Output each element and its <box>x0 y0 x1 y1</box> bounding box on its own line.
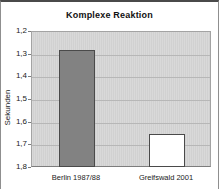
chart-frame: Komplexe Reaktion Sekunden Berlin 1987/8… <box>0 0 219 189</box>
y-tick-label: 1,2 <box>5 27 27 35</box>
x-category-label: Berlin 1987/88 <box>36 173 116 182</box>
y-tick-mark <box>28 76 31 77</box>
y-tick-label: 1,3 <box>5 50 27 58</box>
y-tick-mark <box>28 99 31 100</box>
y-tick-mark <box>28 122 31 123</box>
bar-greifswald <box>149 134 185 167</box>
bar-berlin <box>59 50 95 167</box>
y-tick-mark <box>28 167 31 168</box>
plot-area <box>31 31 211 167</box>
y-axis-title: Sekunden <box>3 80 12 136</box>
y-tick-label: 1,4 <box>5 72 27 80</box>
y-tick-label: 1,6 <box>5 118 27 126</box>
x-category-label: Greifswald 2001 <box>126 173 206 182</box>
y-tick-label: 1,7 <box>5 140 27 148</box>
y-tick-label: 1,8 <box>5 163 27 171</box>
chart-title: Komplexe Reaktion <box>1 10 218 20</box>
y-tick-mark <box>28 54 31 55</box>
y-tick-mark <box>28 31 31 32</box>
y-tick-label: 1,5 <box>5 95 27 103</box>
y-tick-mark <box>28 144 31 145</box>
